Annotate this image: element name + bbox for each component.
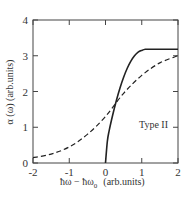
y-tick-label: 3 xyxy=(23,50,29,62)
plot-frame xyxy=(33,20,178,163)
y-tick-label: 2 xyxy=(23,86,29,98)
x-axis-label: ħω − ħω0(arb.units) xyxy=(60,176,145,190)
y-axis-label: α (ω) (arb.units) xyxy=(4,60,16,125)
dashed-curve xyxy=(33,56,178,158)
y-tick-label: 1 xyxy=(23,121,29,133)
y-tick-label: 4 xyxy=(23,14,29,26)
tick-labels: -2-101201234 xyxy=(23,14,181,178)
x-tick-label: 2 xyxy=(175,166,181,178)
type-annotation: Type II xyxy=(139,119,168,130)
solid-curve xyxy=(106,49,179,163)
y-tick-label: 0 xyxy=(23,157,29,169)
x-tick-label: -2 xyxy=(28,166,37,178)
chart: -2-101201234 Type II ħω − ħω0(arb.units)… xyxy=(0,0,190,202)
axis-ticks xyxy=(33,20,178,163)
